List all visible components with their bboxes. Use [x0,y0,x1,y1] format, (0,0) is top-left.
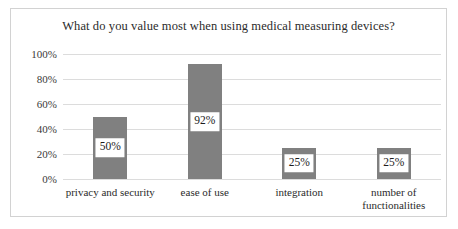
gridline [63,179,441,180]
plot-area: 0%20%40%60%80%100% 50%privacy and securi… [63,54,441,179]
bar-group: 50%privacy and security [63,54,158,179]
bar-value-label: 25% [285,154,314,173]
chart-container: What do you value most when using medica… [10,8,447,217]
x-axis-tick-label: privacy and security [66,186,155,199]
x-axis-tick-label: integration [275,186,323,199]
y-axis-tick-label: 20% [37,148,57,160]
x-axis-tick-label: number offunctionalities [362,186,425,212]
y-axis-tick-label: 100% [31,48,57,60]
bar-group: 25%integration [252,54,347,179]
y-axis-tick-label: 60% [37,98,57,110]
bar-value-label: 92% [190,112,219,131]
y-axis-tick-label: 80% [37,73,57,85]
y-axis-tick-label: 0% [42,173,57,185]
bar-group: 25%number offunctionalities [347,54,442,179]
bar-value-label: 50% [96,139,125,158]
chart-title: What do you value most when using medica… [11,19,446,34]
bar-series: 50%privacy and security92%ease of use25%… [63,54,441,179]
x-axis-tick-label: ease of use [181,186,229,199]
y-axis-tick-label: 40% [37,123,57,135]
bar-value-label: 25% [379,154,408,173]
bar-group: 92%ease of use [158,54,253,179]
